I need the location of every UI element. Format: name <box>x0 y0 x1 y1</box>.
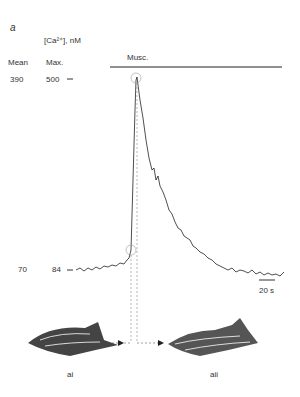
calcium-trace-plot <box>0 0 300 397</box>
calcium-trace <box>76 77 284 276</box>
arrow-left-icon <box>118 340 124 346</box>
surface-plot-ai <box>28 322 118 356</box>
arrow-right-icon <box>158 340 164 346</box>
surface-plot-aii <box>168 318 258 356</box>
